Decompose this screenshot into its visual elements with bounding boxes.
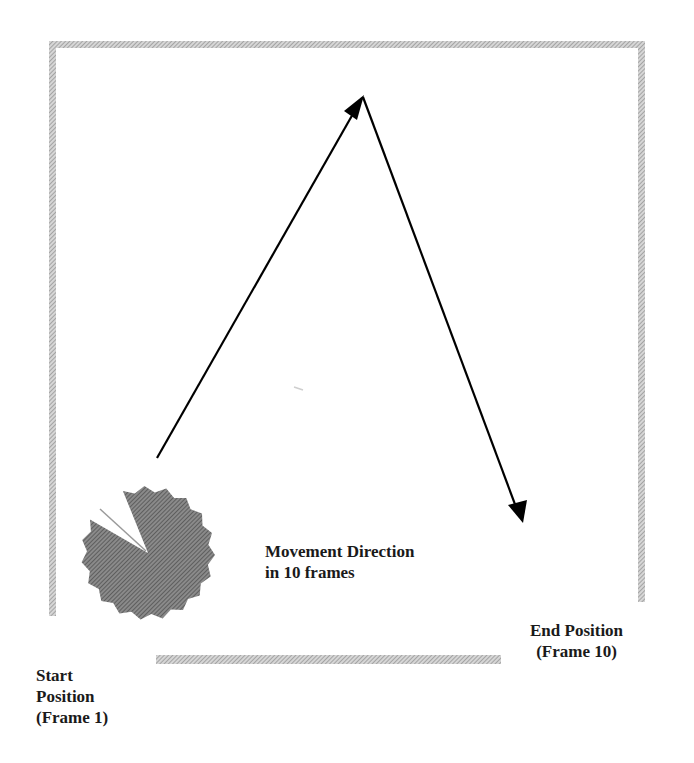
stray-mark (294, 387, 303, 390)
start-label-line-1: Start (36, 665, 108, 686)
arrowhead-downward-icon (508, 500, 527, 523)
end-label-line-2: (Frame 10) (530, 641, 623, 662)
movement-path (157, 95, 527, 523)
arena-border-top (49, 41, 645, 48)
start-position-label: Start Position (Frame 1) (36, 665, 108, 728)
start-label-line-3: (Frame 1) (36, 707, 108, 728)
movement-label-line-2: in 10 frames (265, 562, 414, 583)
arrow-upward (157, 98, 362, 458)
end-position-label: End Position (Frame 10) (530, 620, 623, 662)
movement-label-line-1: Movement Direction (265, 541, 414, 562)
pacman-agent (82, 486, 215, 619)
arena-border-bottom-segment (156, 655, 501, 664)
arrow-downward (363, 97, 519, 515)
arena-border-left (49, 41, 56, 616)
start-label-line-2: Position (36, 686, 108, 707)
arena-border-right (638, 41, 645, 602)
arrowhead-upward-icon (344, 95, 364, 120)
pacman-body (82, 486, 215, 619)
end-label-line-1: End Position (530, 620, 623, 641)
movement-direction-label: Movement Direction in 10 frames (265, 541, 414, 583)
